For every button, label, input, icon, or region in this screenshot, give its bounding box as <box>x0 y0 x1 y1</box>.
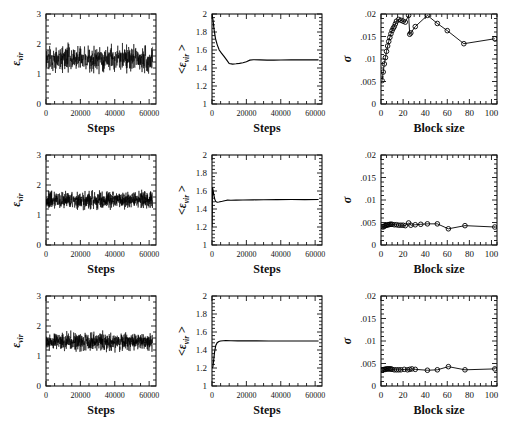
x-tick-label: 20000 <box>236 109 256 118</box>
y-tick-label: 0 <box>37 381 42 391</box>
axis-ticks <box>381 155 497 245</box>
x-tick-label: 20 <box>399 390 409 400</box>
y-axis-label: εvir <box>9 193 25 206</box>
x-tick-label: 80 <box>465 249 475 259</box>
y-tick-label: 1 <box>203 240 208 250</box>
x-tick-label: 0 <box>379 108 384 118</box>
x-tick-label: 40000 <box>271 250 291 259</box>
data-series <box>46 43 153 75</box>
plot-frame <box>381 155 497 245</box>
x-tick-label: 20000 <box>236 250 256 259</box>
x-tick-label: 60000 <box>139 109 159 118</box>
y-tick-labels: 0.005.01.015.02 <box>360 9 376 109</box>
y-axis-label: σ <box>340 196 354 203</box>
x-tick-label: 0 <box>44 250 48 259</box>
y-tick-label: .015 <box>360 32 376 42</box>
y-tick-labels: 11.21.41.61.82 <box>196 150 208 250</box>
y-tick-label: 2 <box>37 180 42 190</box>
y-tick-label: 1 <box>203 99 208 109</box>
figure-grid: 02000040000600000123Stepsεvir02000040000… <box>0 0 527 430</box>
running-average-line <box>212 14 319 64</box>
x-tick-label: 60000 <box>139 391 159 400</box>
x-axis-label: Steps <box>253 121 281 135</box>
y-tick-labels: 0123 <box>37 9 42 109</box>
plot-frame <box>381 14 497 104</box>
y-tick-label: 1.8 <box>196 27 208 37</box>
y-tick-label: .005 <box>360 359 376 369</box>
x-tick-label: 100 <box>485 108 499 118</box>
y-tick-label: 0 <box>37 99 42 109</box>
x-axis-label: Block size <box>414 121 466 135</box>
plot-panel-r2c2: 020000400006000011.21.41.61.82Steps<εvir… <box>166 141 341 284</box>
y-tick-label: .01 <box>365 336 376 346</box>
x-tick-label: 100 <box>485 390 499 400</box>
svg-text:<εvir >: <εvir > <box>175 44 191 74</box>
data-series <box>212 341 319 368</box>
y-tick-label: .005 <box>360 218 376 228</box>
plot-panel-r1c1: 02000040000600000123Stepsεvir <box>0 0 175 143</box>
y-axis-label: εvir <box>9 334 25 347</box>
data-series <box>46 330 153 352</box>
x-tick-labels: 0200004000060000 <box>210 391 325 400</box>
y-tick-label: 1 <box>37 210 42 220</box>
x-tick-labels: 020406080100 <box>379 108 499 118</box>
x-tick-label: 20000 <box>236 391 256 400</box>
axis-ticks <box>381 14 497 104</box>
x-tick-label: 60000 <box>305 250 325 259</box>
y-tick-label: 1 <box>37 69 42 79</box>
x-tick-label: 80 <box>465 390 475 400</box>
y-tick-label: 2 <box>203 150 208 160</box>
plot-panel-r3c2: 020000400006000011.21.41.61.82Steps<εvir… <box>166 282 341 425</box>
y-tick-label: 2 <box>37 39 42 49</box>
y-axis-label: <εvir > <box>175 185 191 215</box>
y-tick-label: 1.4 <box>196 204 208 214</box>
y-tick-label: 1 <box>37 351 42 361</box>
x-tick-label: 40000 <box>105 109 125 118</box>
running-average-line <box>212 187 319 227</box>
data-series <box>380 221 497 231</box>
x-tick-label: 80 <box>465 108 475 118</box>
y-axis-label: εvir <box>9 52 25 65</box>
plot-frame <box>212 14 322 104</box>
x-tick-label: 40000 <box>271 109 291 118</box>
x-tick-label: 60 <box>443 390 453 400</box>
y-tick-label: 1.2 <box>196 363 207 373</box>
plot-panel-r3c3: 0204060801000.005.01.015.02Block sizeσ <box>333 282 508 425</box>
y-tick-label: 3 <box>37 9 42 19</box>
running-average-line <box>212 341 319 368</box>
data-series <box>380 13 497 83</box>
x-tick-label: 100 <box>485 249 499 259</box>
plot-panel-r2c3: 0204060801000.005.01.015.02Block sizeσ <box>333 141 508 284</box>
y-tick-label: 3 <box>37 291 42 301</box>
x-tick-labels: 020406080100 <box>379 390 499 400</box>
x-tick-label: 60 <box>443 108 453 118</box>
x-axis-label: Block size <box>414 403 466 417</box>
x-tick-label: 20000 <box>70 109 90 118</box>
svg-text:σ: σ <box>340 337 354 344</box>
x-tick-label: 60 <box>443 249 453 259</box>
plot-panel-r3c1: 02000040000600000123Stepsεvir <box>0 282 175 425</box>
y-tick-label: 1.6 <box>196 45 208 55</box>
plot-panel-r1c2: 020000400006000011.21.41.61.82Steps<εvir… <box>166 0 341 143</box>
y-tick-label: .01 <box>365 54 376 64</box>
x-tick-label: 20000 <box>70 250 90 259</box>
x-tick-label: 40 <box>421 108 431 118</box>
y-tick-label: 2 <box>203 9 208 19</box>
axis-ticks <box>212 14 322 104</box>
noise-trace <box>46 190 153 211</box>
y-tick-label: 1.6 <box>196 327 208 337</box>
y-tick-label: 1.2 <box>196 222 207 232</box>
x-tick-labels: 0200004000060000 <box>44 109 159 118</box>
x-tick-label: 40 <box>421 249 431 259</box>
x-tick-label: 20 <box>399 249 409 259</box>
x-axis-label: Block size <box>414 262 466 276</box>
y-axis-label: <εvir > <box>175 326 191 356</box>
x-tick-label: 0 <box>44 109 48 118</box>
y-tick-label: 1.4 <box>196 63 208 73</box>
y-axis-label: <εvir > <box>175 44 191 74</box>
y-tick-label: 1.8 <box>196 168 208 178</box>
y-tick-label: 2 <box>37 321 42 331</box>
svg-text:σ: σ <box>340 55 354 62</box>
x-tick-label: 40000 <box>271 391 291 400</box>
x-tick-label: 20000 <box>70 391 90 400</box>
